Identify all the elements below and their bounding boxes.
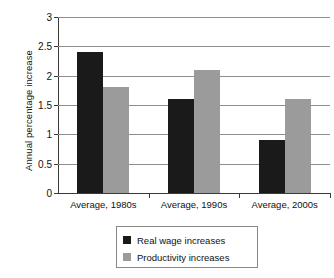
y-axis-tick-label: 1 [46,129,52,140]
category-separator [330,193,331,198]
legend-entries-group: Real wage increasesProductivity increase… [123,232,251,265]
y-axis-tick [54,76,58,77]
x-axis-label: Average, 2000s [239,199,330,210]
legend-item: Real wage increases [123,232,251,248]
legend-label: Productivity increases [137,252,229,263]
y-axis-tick-label: 0.5 [38,158,52,169]
gridline: 0 [58,193,330,194]
y-axis-tick [54,193,58,194]
y-axis-tick-label: 1.5 [38,100,52,111]
y-axis-tick [54,164,58,165]
y-axis-tick-label: 2 [46,70,52,81]
y-axis-tick [54,105,58,106]
y-axis-tick-label: 2.5 [38,41,52,52]
y-axis-tick [54,17,58,18]
legend: Real wage increasesProductivity increase… [116,226,258,268]
x-axis-label: Average, 1980s [58,199,149,210]
gridline: 2.5 [58,46,330,47]
category-separator [149,193,150,198]
y-axis-tick [54,134,58,135]
y-axis-tick-label: 3 [46,12,52,23]
y-axis-tick-label: 0 [46,188,52,199]
bar [168,99,194,193]
x-axis-label: Average, 1990s [149,199,240,210]
bar [285,99,311,193]
gridline: 3 [58,17,330,18]
bar [194,70,220,193]
legend-label: Real wage increases [137,235,225,246]
bar [103,87,129,193]
plot-area: 00.511.522.53 [58,17,330,193]
legend-swatch-icon [123,253,131,261]
bar-chart: Annual percentage increase 00.511.522.53… [0,0,334,278]
legend-item: Productivity increases [123,249,251,265]
category-separator [239,193,240,198]
bar [77,52,103,193]
y-axis-tick [54,46,58,47]
legend-swatch-icon [123,236,131,244]
y-axis-title: Annual percentage increase [23,21,34,201]
bar [259,140,285,193]
